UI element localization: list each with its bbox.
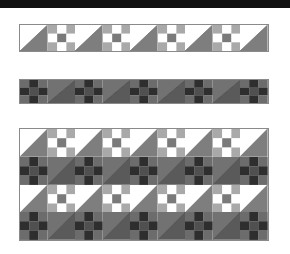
nine-patch-light [103,185,131,213]
nine-patch-dark [185,157,213,185]
nine-patch-dark [75,212,103,240]
nine-patch-light [103,25,131,51]
nine-patch-dark [185,212,213,240]
nine-patch-dark [20,80,48,103]
nine-patch-light [158,129,186,157]
half-square-triangle-light [20,185,48,213]
half-square-triangle-light [130,129,158,157]
half-square-triangle-light [185,185,213,213]
half-square-triangle-light [130,25,158,51]
half-square-triangle-light [75,185,103,213]
nine-patch-dark [240,212,268,240]
nine-patch-dark [75,80,103,103]
nine-patch-light [103,129,131,157]
half-square-triangle-light [185,25,213,51]
half-square-triangle-dark [48,80,76,103]
nine-patch-dark [240,157,268,185]
half-square-triangle-dark [48,212,76,240]
half-square-triangle-light [20,25,48,51]
nine-patch-dark [20,212,48,240]
half-square-triangle-dark [103,80,131,103]
nine-patch-dark [130,80,158,103]
nine-patch-dark [130,157,158,185]
nine-patch-dark [75,157,103,185]
nine-patch-light [48,25,76,51]
half-square-triangle-dark [213,157,241,185]
nine-patch-light [213,129,241,157]
nine-patch-light [213,185,241,213]
half-square-triangle-dark [103,157,131,185]
half-square-triangle-dark [158,157,186,185]
title-bar [0,0,290,8]
half-square-triangle-dark [103,212,131,240]
light-strip [19,24,269,52]
nine-patch-light [158,25,186,51]
half-square-triangle-dark [48,157,76,185]
nine-patch-dark [185,80,213,103]
nine-patch-dark [20,157,48,185]
half-square-triangle-light [20,129,48,157]
nine-patch-dark [130,212,158,240]
combined-quilt [19,128,269,241]
nine-patch-light [48,185,76,213]
half-square-triangle-light [130,185,158,213]
nine-patch-light [158,185,186,213]
half-square-triangle-dark [158,80,186,103]
nine-patch-light [48,129,76,157]
half-square-triangle-light [75,129,103,157]
half-square-triangle-light [240,185,268,213]
half-square-triangle-light [75,25,103,51]
half-square-triangle-light [240,25,268,51]
half-square-triangle-dark [213,212,241,240]
half-square-triangle-light [185,129,213,157]
half-square-triangle-dark [213,80,241,103]
dark-strip [19,79,269,104]
half-square-triangle-dark [158,212,186,240]
nine-patch-light [213,25,241,51]
nine-patch-dark [240,80,268,103]
half-square-triangle-light [240,129,268,157]
